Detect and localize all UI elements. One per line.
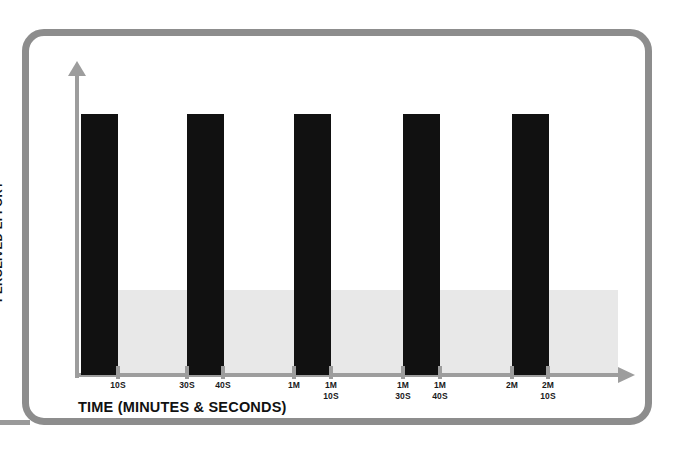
x-axis-tick bbox=[185, 366, 189, 379]
x-axis-tick bbox=[221, 366, 225, 379]
x-axis-tick-label: 40S bbox=[193, 380, 253, 391]
x-axis-tick bbox=[438, 366, 442, 379]
y-axis-arrow-icon bbox=[68, 61, 86, 76]
x-axis-title: TIME (MINUTES & SECONDS) bbox=[78, 399, 287, 415]
x-axis-tick-label: 1M40S bbox=[410, 380, 470, 402]
tick-label-line: 2M bbox=[518, 380, 578, 391]
tick-label-line: 10S bbox=[88, 380, 148, 391]
tick-label-line: 1M bbox=[410, 380, 470, 391]
bar bbox=[81, 114, 118, 375]
x-axis-arrow-icon bbox=[618, 367, 635, 383]
x-axis-tick bbox=[329, 366, 333, 379]
y-axis-title: PERCEIVED EFFORT bbox=[0, 162, 4, 302]
x-axis-tick bbox=[292, 366, 296, 379]
plot-area: 10S30S40S1M1M10S1M30S1M40S2M2M10S TIME (… bbox=[0, 0, 682, 465]
bar bbox=[512, 114, 549, 375]
x-axis-tick-label: 1M10S bbox=[301, 380, 361, 402]
tick-label-line: 10S bbox=[518, 391, 578, 402]
x-axis-tick-label: 2M10S bbox=[518, 380, 578, 402]
y-axis-line bbox=[75, 74, 79, 378]
x-axis-tick bbox=[546, 366, 550, 379]
bar bbox=[187, 114, 224, 375]
bar bbox=[403, 114, 440, 375]
chart-canvas: 10S30S40S1M1M10S1M30S1M40S2M2M10S TIME (… bbox=[0, 0, 682, 465]
x-axis-tick-label: 10S bbox=[88, 380, 148, 391]
x-axis-tick bbox=[510, 366, 514, 379]
x-axis-tick bbox=[116, 366, 120, 379]
x-axis-tick bbox=[401, 366, 405, 379]
tick-label-line: 10S bbox=[301, 391, 361, 402]
tick-label-line: 40S bbox=[193, 380, 253, 391]
bar bbox=[294, 114, 331, 375]
tick-label-line: 1M bbox=[301, 380, 361, 391]
tick-label-line: 40S bbox=[410, 391, 470, 402]
